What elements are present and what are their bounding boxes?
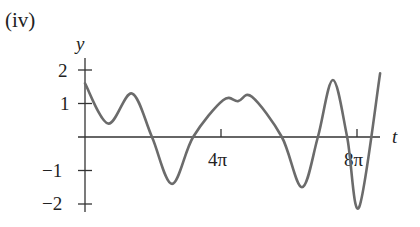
plot-area <box>0 0 420 227</box>
data-curve <box>85 73 380 208</box>
